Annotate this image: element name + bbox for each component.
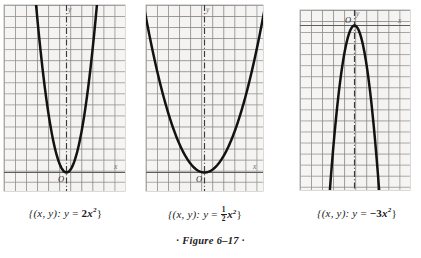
caption-1-suffix: }	[97, 207, 102, 219]
x-axis-label-2: x	[253, 163, 256, 171]
origin-label-2: O	[196, 175, 202, 184]
panel-3-caption: {(x, y): y=−3x2}	[293, 206, 421, 219]
origin-label-1: O	[58, 175, 64, 184]
caption-3-equals: =	[357, 207, 369, 219]
caption-3-suffix: }	[391, 207, 396, 219]
origin-label-3: O	[345, 16, 351, 25]
caption-3-prefix: {(x, y): y	[317, 207, 357, 219]
caption-3-coefficient: −3	[370, 207, 382, 219]
graph-svg-1	[4, 5, 125, 191]
y-axis-label-3: y	[356, 10, 359, 18]
caption-2-numerator: 1	[221, 206, 227, 214]
graph-panel-2: y x O	[146, 5, 263, 191]
y-axis-label-1: y	[68, 6, 71, 14]
caption-2-denominator: 2	[221, 214, 227, 223]
caption-2-suffix: }	[237, 208, 242, 220]
y-axis-label-2: y	[206, 6, 209, 14]
panel-1-caption: {(x, y): y=2x2}	[0, 206, 131, 219]
caption-2-fraction: 12	[221, 206, 227, 222]
graph-svg-2	[146, 5, 263, 191]
figure-page: y x O {(x, y): y=2x2} y x O {(x, y): y=1…	[0, 0, 421, 258]
figure-caption: · Figure 6–17 ·	[0, 235, 421, 246]
x-axis-label-1: x	[114, 163, 117, 171]
graph-panel-3: y x O	[300, 10, 410, 190]
x-axis-label-3: x	[398, 17, 401, 25]
caption-1-equals: =	[69, 207, 81, 219]
caption-2-equals: =	[208, 208, 220, 220]
caption-2-prefix: {(x, y): y	[168, 208, 208, 220]
caption-1-prefix: {(x, y): y	[29, 207, 69, 219]
panel-2-caption: {(x, y): y=12x2}	[140, 206, 270, 222]
graph-panel-1: y x O	[4, 5, 125, 191]
graph-svg-3	[300, 10, 410, 190]
